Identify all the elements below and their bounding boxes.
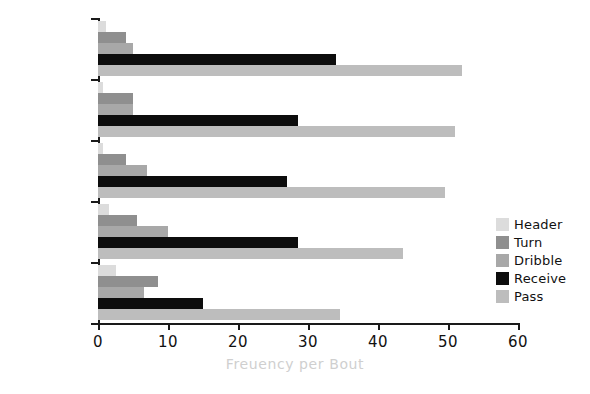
legend-item[interactable]: Dribble [496, 252, 566, 269]
legend-label: Pass [514, 289, 544, 304]
x-axis-title: Freuency per Bout [0, 356, 590, 372]
legend-swatch-icon [496, 272, 509, 285]
legend-item[interactable]: Header [496, 216, 566, 233]
y-axis-category-labels: 5v54v43v32v21v1 [0, 0, 590, 394]
legend-label: Header [514, 217, 563, 232]
legend-item[interactable]: Turn [496, 234, 566, 251]
y-axis-title: Format [0, 110, 2, 163]
legend-item[interactable]: Pass [496, 288, 566, 305]
legend-item[interactable]: Receive [496, 270, 566, 287]
legend-swatch-icon [496, 254, 509, 267]
legend: HeaderTurnDribbleReceivePass [496, 216, 566, 306]
legend-label: Dribble [514, 253, 562, 268]
legend-swatch-icon [496, 218, 509, 231]
bar-chart: 0102030405060 5v54v43v32v21v1 Freuency p… [0, 0, 590, 394]
legend-label: Receive [514, 271, 566, 286]
legend-swatch-icon [496, 290, 509, 303]
legend-label: Turn [514, 235, 542, 250]
legend-swatch-icon [496, 236, 509, 249]
